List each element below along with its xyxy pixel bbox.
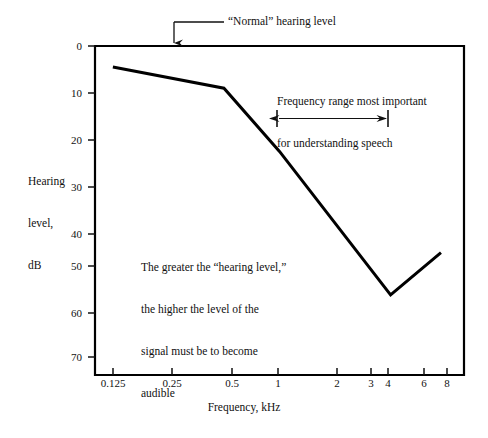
normal-level-leader xyxy=(174,22,224,43)
x-tick-label-0125: 0.125 xyxy=(101,377,126,389)
y-axis-title-line1: Hearing xyxy=(28,174,65,188)
speech-range-annotation: Frequency range most important for under… xyxy=(277,66,427,178)
x-tick-label-6: 6 xyxy=(421,377,427,389)
y-tick-label-0: 0 xyxy=(62,40,82,52)
y-tick-label-20: 20 xyxy=(56,134,82,146)
x-tick-label-3: 3 xyxy=(368,377,374,389)
explanation-line4: audible xyxy=(141,386,286,400)
x-tick-label-4: 4 xyxy=(385,377,391,389)
y-axis-title-line3: dB xyxy=(28,258,65,272)
speech-range-line1: Frequency range most important xyxy=(277,94,427,108)
speech-range-line2: for understanding speech xyxy=(277,136,427,150)
hearing-level-explanation-annotation: The greater the “hearing level,” the hig… xyxy=(141,232,286,428)
y-tick-label-10: 10 xyxy=(56,87,82,99)
x-tick-label-2: 2 xyxy=(334,377,340,389)
audiogram-figure: 0 10 20 30 40 50 60 70 0.125 0.25 0.5 1 … xyxy=(0,0,488,438)
y-tick-label-60: 60 xyxy=(56,307,82,319)
explanation-line3: signal must be to become xyxy=(141,344,286,358)
y-axis-title-line2: level, xyxy=(28,216,65,230)
x-tick-label-8: 8 xyxy=(444,377,450,389)
explanation-line2: the higher the level of the xyxy=(141,302,286,316)
y-axis-title: Hearing level, dB xyxy=(28,146,65,300)
normal-hearing-level-annotation: “Normal” hearing level xyxy=(228,14,336,28)
explanation-line1: The greater the “hearing level,” xyxy=(141,260,286,274)
y-tick-label-70: 70 xyxy=(56,351,82,363)
